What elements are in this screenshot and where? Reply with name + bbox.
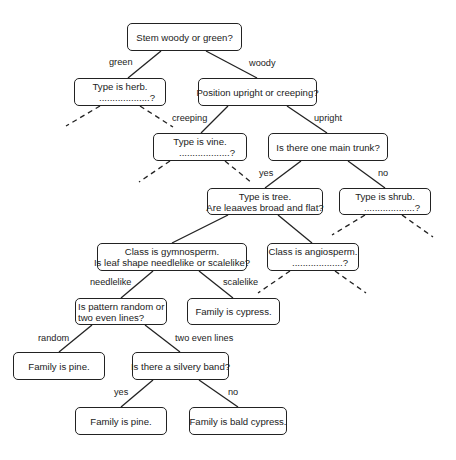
node-text: ...................? <box>165 147 235 158</box>
node-family-cypress: Family is cypress. <box>187 298 280 325</box>
node-text: Position upright or creeping? <box>196 87 318 98</box>
dash-herb-left <box>66 106 100 126</box>
edge-label-yes-silvery: yes <box>114 387 128 397</box>
node-text: Family is bald cypress. <box>189 416 286 427</box>
edge-label-random: random <box>38 333 69 343</box>
node-position-question: Position upright or creeping? <box>198 78 317 106</box>
node-family-pine-silvery: Family is pine. <box>75 407 167 435</box>
dash-shrub-left <box>332 215 365 235</box>
node-text: Type is herb. <box>93 81 148 92</box>
node-stem-question: Stem woody or green? <box>127 23 242 51</box>
dash-shrub-right <box>402 215 433 237</box>
node-text: Class is angiosperm. <box>268 246 357 257</box>
node-text: Type is vine. <box>173 136 226 147</box>
dash-angio-left <box>258 271 290 293</box>
edge-tree-gymno <box>172 215 228 243</box>
node-class-gymnosperm: Class is gymnosperm. Is leaf shape needl… <box>97 243 247 271</box>
edge-label-yes-trunk: yes <box>259 168 273 178</box>
dash-vine-left <box>139 161 170 182</box>
edge-tree-angio <box>278 215 312 243</box>
node-trunk-question: Is there one main trunk? <box>268 133 388 161</box>
node-text: Is leaf shape needlelike or scalelike? <box>94 257 250 268</box>
node-text: Are leaaves broad and flat? <box>206 202 323 213</box>
node-text: Type is tree. <box>239 191 291 202</box>
edge-label-woody: woody <box>249 58 276 68</box>
edge-root-herb <box>128 51 161 78</box>
node-text: Is there a silvery band? <box>131 361 230 372</box>
node-pattern-question: Is pattern random or two even lines? <box>75 298 167 325</box>
dash-herb-right <box>140 106 173 127</box>
node-silvery-question: Is there a silvery band? <box>132 352 229 380</box>
node-text: Is pattern random or <box>78 301 164 312</box>
node-text: Stem woody or green? <box>136 32 233 43</box>
node-class-angiosperm: Class is angiosperm. ...................… <box>267 243 359 271</box>
dash-angio-right <box>335 271 366 293</box>
node-text: ...................? <box>278 257 348 268</box>
edge-label-upright: upright <box>314 113 342 123</box>
edge-label-no-trunk: no <box>378 168 388 178</box>
node-type-vine: Type is vine. ...................? <box>153 133 247 161</box>
node-text: Family is cypress. <box>195 306 271 317</box>
edge-label-green: green <box>109 57 133 67</box>
node-text: Family is pine. <box>28 361 89 372</box>
node-text: Type is shrub. <box>355 191 415 202</box>
edge-label-creeping: creeping <box>172 113 207 123</box>
edge-label-needlelike: needlelike <box>90 277 131 287</box>
edge-label-no-silvery: no <box>228 387 238 397</box>
edge-label-scalelike: scalelike <box>223 277 258 287</box>
node-text: ...................? <box>85 92 155 103</box>
node-family-pine-random: Family is pine. <box>13 352 105 380</box>
dash-vine-right <box>225 161 252 183</box>
node-type-herb: Type is herb. ...................? <box>74 78 166 106</box>
node-text: two even lines? <box>78 312 144 323</box>
node-text: ...................? <box>350 202 420 213</box>
node-text: Family is pine. <box>90 416 151 427</box>
edge-label-two-even-lines: two even lines <box>175 333 233 343</box>
node-type-shrub: Type is shrub. ...................? <box>339 188 431 215</box>
node-text: Class is gymnosperm. <box>125 246 219 257</box>
node-type-tree: Type is tree. Are leaaves broad and flat… <box>207 188 323 215</box>
node-family-bald-cypress: Family is bald cypress. <box>189 407 287 435</box>
node-text: Is there one main trunk? <box>276 142 379 153</box>
